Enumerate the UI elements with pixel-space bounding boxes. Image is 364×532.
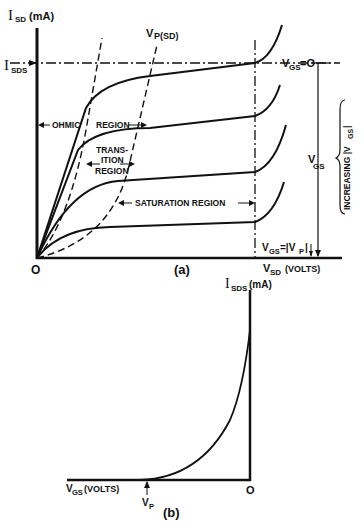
transition-label-3: REGION bbox=[95, 166, 129, 176]
increasing-vgs-label: INCREASING |V GS | bbox=[342, 126, 354, 210]
origin-b: O bbox=[246, 484, 255, 496]
saturation-arrowhead-right bbox=[249, 200, 255, 206]
vgsvp-label-eq: =|V bbox=[280, 242, 296, 253]
transition-arrowhead-left bbox=[86, 161, 92, 167]
saturation-region-label: SATURATION REGION bbox=[135, 198, 225, 208]
vgs-scale-arrow bbox=[315, 250, 321, 257]
xsd-label-sub: SD bbox=[270, 268, 281, 277]
vgs-label-sub: GS bbox=[313, 162, 325, 171]
caption-a: (a) bbox=[174, 262, 190, 277]
vp-sd-label-main: V bbox=[146, 27, 154, 39]
vp-b-label-sub: P bbox=[149, 502, 154, 511]
isds-label-sub: SDS bbox=[11, 66, 28, 75]
vgs-b-label-unit: (VOLTS) bbox=[84, 484, 119, 494]
figure-b-labels: I SDS (mA) V GS (VOLTS) V P O (b) bbox=[66, 276, 272, 520]
ysd-label-sub: SD bbox=[15, 15, 26, 24]
transfer-curve bbox=[140, 330, 250, 480]
transition-arrowhead-right bbox=[129, 161, 135, 167]
isds-b-label-sub: SDS bbox=[231, 284, 248, 293]
curve-vgs-3 bbox=[37, 182, 284, 258]
figure-a-labels: I SD (mA) I SDS V P(SD) OHMIC REGION TRA… bbox=[4, 7, 354, 277]
isds-b-label-main: I bbox=[225, 276, 230, 291]
vgsvp-label-main: V bbox=[262, 242, 269, 253]
vgsvp-label-p: P bbox=[299, 247, 304, 256]
ohmic-arrowhead-left bbox=[38, 122, 44, 128]
vgsvp-label-sub: GS bbox=[269, 247, 280, 256]
vp-b-label-main: V bbox=[142, 497, 149, 508]
vgs0-label-value: =O bbox=[300, 57, 315, 69]
vgs-b-label-sub: GS bbox=[72, 488, 83, 497]
figure-b bbox=[67, 290, 251, 495]
vp-arrowhead-b bbox=[144, 481, 150, 488]
vgsvp-label-end: | bbox=[305, 242, 308, 253]
isds-b-label-unit: (mA) bbox=[249, 279, 272, 290]
svg-text:|: | bbox=[342, 126, 352, 128]
figure-a bbox=[10, 25, 345, 259]
transition-label-2: ITION bbox=[101, 155, 124, 165]
ohmic-region-label: REGION bbox=[96, 120, 130, 130]
saturation-arrowhead-left bbox=[118, 200, 124, 206]
xsd-label-unit: (VOLTS) bbox=[285, 264, 320, 274]
ysd-label-main: I bbox=[8, 7, 13, 23]
origin-a: O bbox=[31, 263, 40, 277]
svg-text:GS: GS bbox=[347, 129, 354, 139]
jfet-characteristics-figure: I SD (mA) I SDS V P(SD) OHMIC REGION TRA… bbox=[0, 0, 364, 532]
transition-label-1: TRANS- bbox=[96, 145, 128, 155]
caption-b: (b) bbox=[163, 505, 180, 520]
ohmic-label: OHMIC bbox=[52, 120, 80, 130]
svg-text:INCREASING |V: INCREASING |V bbox=[342, 146, 352, 210]
isds-label-main: I bbox=[4, 57, 9, 73]
ysd-label-unit: (mA) bbox=[29, 10, 54, 22]
vp-sd-label-sub: P(SD) bbox=[154, 31, 179, 41]
